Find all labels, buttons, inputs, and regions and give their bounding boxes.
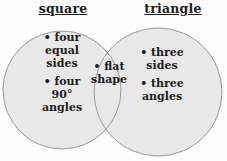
right-set-title: triangle [133,1,213,16]
right-set-items: • three sides • three angles [128,46,196,103]
right-item-three-sides: • three sides [128,46,196,72]
intersection-item-flat-shape: • flat shape [86,60,132,86]
right-item-three-angles: • three angles [128,77,196,103]
intersection-items: • flat shape [86,60,132,86]
left-set-title: square [23,1,103,16]
venn-diagram: square triangle • four equal sides • fou… [0,0,227,161]
